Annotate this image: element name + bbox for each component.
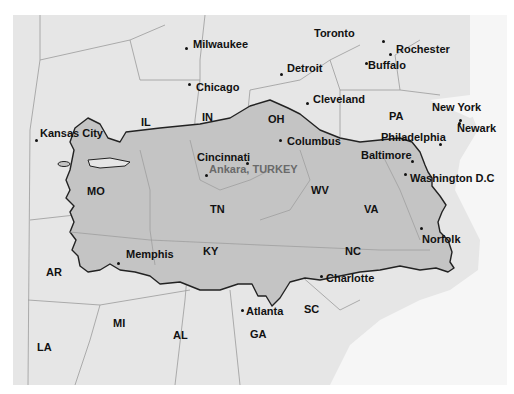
city-label[interactable]: Norfolk <box>422 233 461 245</box>
state-label: LA <box>37 341 52 353</box>
state-label: OH <box>268 113 285 125</box>
city-label[interactable]: Atlanta <box>246 305 283 317</box>
city-marker-icon[interactable] <box>117 262 120 265</box>
city-marker-icon[interactable] <box>185 47 188 50</box>
state-label: MO <box>87 185 105 197</box>
city-label[interactable]: New York <box>432 101 481 113</box>
city-marker-icon[interactable] <box>280 73 283 76</box>
city-label[interactable]: Rochester <box>396 43 450 55</box>
city-marker-icon[interactable] <box>404 173 407 176</box>
city-marker-icon[interactable] <box>241 309 244 312</box>
state-label: KY <box>203 245 218 257</box>
state-label: IN <box>202 111 213 123</box>
city-label[interactable]: Memphis <box>126 248 174 260</box>
city-marker-icon[interactable] <box>279 139 282 142</box>
city-label[interactable]: Baltimore <box>361 149 412 161</box>
city-marker-icon[interactable] <box>420 227 423 230</box>
state-label: MI <box>113 317 125 329</box>
city-label[interactable]: Detroit <box>287 62 322 74</box>
state-label: VA <box>364 203 378 215</box>
state-label: GA <box>250 328 267 340</box>
city-label[interactable]: Newark <box>457 122 496 134</box>
state-label: IL <box>141 116 151 128</box>
state-label: NC <box>345 245 361 257</box>
city-marker-icon[interactable] <box>439 143 442 146</box>
city-label[interactable]: Philadelphia <box>381 131 446 143</box>
state-label: PA <box>389 110 403 122</box>
state-label: AR <box>46 266 62 278</box>
state-label: TN <box>210 203 225 215</box>
city-label[interactable]: Cleveland <box>313 93 365 105</box>
city-marker-icon[interactable] <box>382 40 385 43</box>
city-marker-icon[interactable] <box>188 83 191 86</box>
city-label[interactable]: Columbus <box>287 135 341 147</box>
city-marker-icon[interactable] <box>389 53 392 56</box>
state-label: AL <box>173 329 188 341</box>
city-label[interactable]: Buffalo <box>368 59 406 71</box>
city-marker-icon[interactable] <box>35 139 38 142</box>
capital-marker-icon[interactable] <box>205 174 208 177</box>
city-label[interactable]: Toronto <box>314 27 355 39</box>
state-label: SC <box>304 303 319 315</box>
city-label[interactable]: Washington D.C <box>410 172 495 184</box>
capital-label[interactable]: Ankara, TURKEY <box>209 163 298 175</box>
map-canvas[interactable]: MilwaukeeChicagoTorontoRochesterBuffaloD… <box>13 15 507 385</box>
city-label[interactable]: Kansas City <box>40 127 103 139</box>
city-marker-icon[interactable] <box>306 102 309 105</box>
city-label[interactable]: Cincinnati <box>197 151 250 163</box>
city-label[interactable]: Milwaukee <box>193 38 248 50</box>
city-label[interactable]: Charlotte <box>326 272 374 284</box>
city-marker-icon[interactable] <box>320 275 323 278</box>
city-label[interactable]: Chicago <box>196 81 239 93</box>
state-label: WV <box>311 184 329 196</box>
